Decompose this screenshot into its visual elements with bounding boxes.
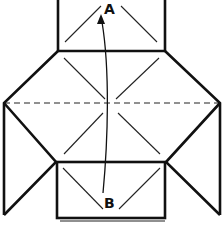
left-triangle (4, 103, 56, 215)
label-a: A (104, 1, 115, 17)
bottom-flap-crease-left (63, 168, 103, 209)
top-flap-crease-right (121, 6, 157, 42)
right-triangle (166, 103, 220, 215)
crease-lower-right (118, 113, 160, 154)
bottom-flap (57, 162, 165, 221)
arrow-curve (102, 22, 107, 193)
label-b: B (104, 195, 115, 211)
center-body (4, 51, 220, 215)
bottom-flap-crease-right (119, 168, 160, 209)
crease-lower-left (64, 113, 103, 154)
top-flap-crease-left (65, 6, 101, 42)
crease-upper-left (64, 58, 105, 99)
crease-upper-right (116, 58, 159, 99)
origami-diagram: A B (0, 0, 224, 225)
